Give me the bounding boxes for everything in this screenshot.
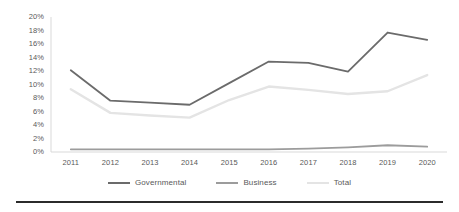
x-axis-tick-label: 2013 [130, 158, 170, 167]
y-axis-tick-label: 18% [18, 26, 44, 35]
legend-swatch-icon [108, 182, 130, 184]
bottom-divider [16, 201, 443, 203]
legend-label: Governmental [135, 178, 186, 187]
x-axis-tick-label: 2014 [170, 158, 210, 167]
x-axis-tick-label: 2019 [368, 158, 408, 167]
legend-swatch-icon [216, 182, 238, 184]
legend-item[interactable]: Business [216, 178, 276, 187]
y-axis-tick-label: 0% [18, 147, 44, 156]
y-axis-tick-label: 16% [18, 39, 44, 48]
x-axis-tick-label: 2016 [249, 158, 289, 167]
series-line [71, 145, 427, 149]
x-axis-tick-label: 2017 [288, 158, 328, 167]
legend-item[interactable]: Governmental [108, 178, 186, 187]
chart-legend: GovernmentalBusinessTotal [0, 178, 459, 187]
y-axis-tick-label: 10% [18, 80, 44, 89]
y-axis-tick-label: 4% [18, 120, 44, 129]
series-lines [71, 33, 427, 150]
x-axis-tick-label: 2015 [209, 158, 249, 167]
y-axis-tick-label: 6% [18, 107, 44, 116]
legend-item[interactable]: Total [307, 178, 351, 187]
y-axis-tick-label: 8% [18, 93, 44, 102]
legend-label: Total [334, 178, 351, 187]
axis-lines [51, 17, 447, 152]
legend-swatch-icon [307, 182, 329, 184]
series-line [71, 75, 427, 118]
line-chart: 0%2%4%6%8%10%12%14%16%18%20% 20112012201… [0, 0, 459, 212]
x-axis-tick-label: 2012 [90, 158, 130, 167]
y-axis-tick-label: 20% [18, 12, 44, 21]
y-axis-tick-label: 2% [18, 134, 44, 143]
y-axis-tick-label: 14% [18, 53, 44, 62]
x-axis-tick-label: 2018 [328, 158, 368, 167]
x-axis-tick-label: 2020 [407, 158, 447, 167]
y-axis-tick-label: 12% [18, 66, 44, 75]
x-axis-tick-label: 2011 [51, 158, 91, 167]
legend-label: Business [243, 178, 276, 187]
